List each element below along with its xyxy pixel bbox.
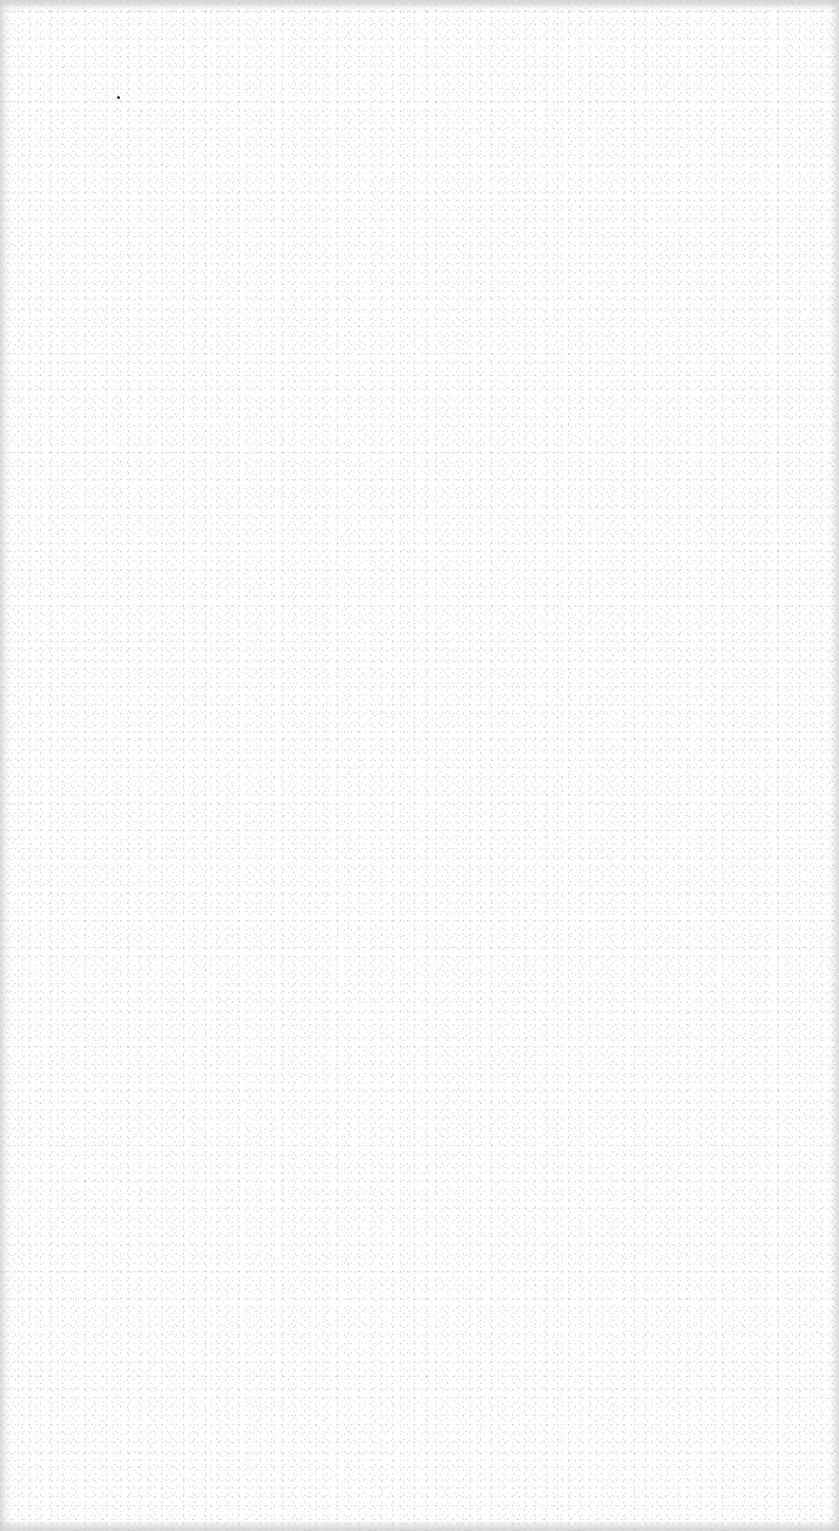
blank-scanned-page <box>0 0 839 1531</box>
dust-speck <box>117 96 120 99</box>
